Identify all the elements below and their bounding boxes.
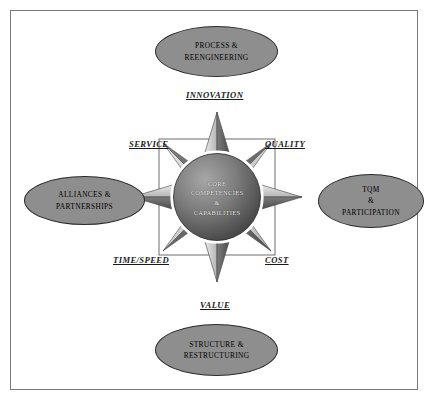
axis-label-value: VALUE	[200, 300, 230, 310]
axis-label-time-speed: TIME/SPEED	[113, 255, 169, 265]
node-alliances-partnerships-label: ALLIANCES & PARTNERSHIPS	[56, 189, 113, 212]
node-process-reengineering[interactable]: PROCESS & REENGINEERING	[155, 26, 278, 77]
axis-label-cost: COST	[265, 255, 289, 265]
node-tqm-participation-label: TQM & PARTICIPATION	[342, 184, 400, 218]
node-structure-restructuring-label: STRUCTURE & RESTRUCTURING	[184, 339, 250, 362]
axis-label-innovation: INNOVATION	[186, 90, 243, 100]
center-circle	[174, 154, 261, 241]
node-process-reengineering-label: PROCESS & REENGINEERING	[184, 40, 248, 63]
node-tqm-participation[interactable]: TQM & PARTICIPATION	[318, 174, 424, 228]
diagram-canvas: CORE COMPETENCIES & CAPABILITIES PROCESS…	[0, 0, 432, 405]
axis-label-service: SERVICE	[129, 139, 168, 149]
node-structure-restructuring[interactable]: STRUCTURE & RESTRUCTURING	[155, 324, 278, 376]
axis-label-quality: QUALITY	[265, 139, 305, 149]
node-alliances-partnerships[interactable]: ALLIANCES & PARTNERSHIPS	[24, 176, 145, 225]
